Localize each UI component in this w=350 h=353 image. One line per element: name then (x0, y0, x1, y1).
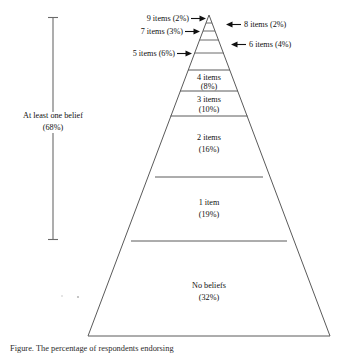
callout-arrow-6-items (231, 42, 246, 48)
callout-label-6-items: 6 items (4%) (249, 40, 292, 49)
callout-arrow-9-items (191, 16, 206, 22)
tier-percent-3-items: (10%) (199, 105, 220, 114)
tier-percent-no-beliefs: (32%) (199, 293, 220, 302)
tier-percent-1-item: (19%) (199, 210, 220, 219)
callout-label-9-items: 9 items (2%) (147, 14, 190, 23)
pyramid-figure: 4 items (8%) 3 items (10%) 2 items (16%)… (0, 0, 350, 353)
tier-label-1-item: 1 item (199, 198, 220, 207)
scan-speck (61, 295, 62, 296)
callout-label-8-items: 8 items (2%) (244, 20, 287, 29)
tier-label-2-items: 2 items (197, 133, 221, 142)
tier-percent-4-items: (8%) (201, 82, 218, 91)
callout-label-5-items: 5 items (6%) (133, 49, 176, 58)
callout-arrow-7-items (185, 29, 200, 35)
tier-label-3-items: 3 items (197, 95, 221, 104)
callout-arrow-8-items (226, 22, 241, 28)
tier-label-4-items: 4 items (197, 73, 221, 82)
figure-caption: Figure. The percentage of respondents en… (10, 344, 174, 353)
bracket-label-line1: At least one belief (23, 111, 83, 120)
figure-page: 4 items (8%) 3 items (10%) 2 items (16%)… (0, 0, 350, 353)
tier-percent-2-items: (16%) (199, 145, 220, 154)
bracket-label-line2: (68%) (43, 123, 64, 132)
scan-speck (77, 296, 79, 298)
callout-arrow-5-items (177, 51, 192, 57)
tier-label-no-beliefs: No beliefs (192, 281, 226, 290)
callout-label-7-items: 7 items (3%) (141, 27, 184, 36)
